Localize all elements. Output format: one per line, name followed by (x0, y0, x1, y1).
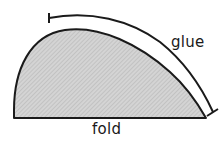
glue-label: glue (171, 35, 205, 50)
fold-label: fold (92, 122, 121, 137)
